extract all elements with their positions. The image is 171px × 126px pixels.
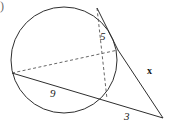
chord-top-bottom-dashed xyxy=(97,8,107,99)
label-tangent-segment: x xyxy=(147,66,152,76)
label-chord-short: 5 xyxy=(100,31,106,42)
chord-top-right-solid xyxy=(97,8,118,50)
segment-right-to-external xyxy=(118,50,163,118)
label-secant-outside: 3 xyxy=(124,111,130,122)
circle-shape xyxy=(11,7,117,113)
label-secant-inside: 9 xyxy=(50,88,56,99)
geometry-canvas xyxy=(0,0,171,126)
geometry-figure: ) 5 9 x 3 xyxy=(0,0,171,126)
secant-left-to-external xyxy=(12,73,163,118)
